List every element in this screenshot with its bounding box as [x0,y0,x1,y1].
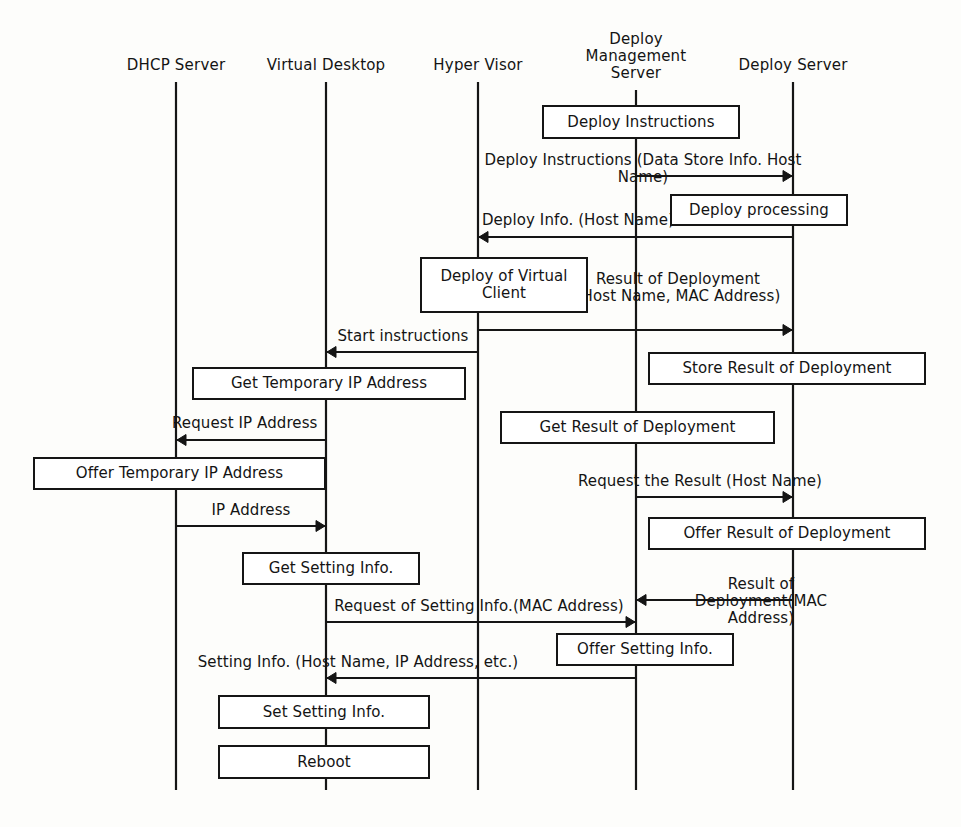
diagram-vector-layer [0,0,961,827]
activity-box-deploy-processing: Deploy processing [670,194,848,226]
activity-box-offer-temporary-ip: Offer Temporary IP Address [33,457,326,490]
message-label-request-setting-info-msg: Request of Setting Info.(MAC Address) [334,598,624,615]
message-label-setting-info-msg: Setting Info. (Host Name, IP Address, et… [198,654,519,671]
lifeline-label-hypervisor: Hyper Visor [433,57,522,74]
activity-box-deploy-instructions: Deploy Instructions [542,105,740,139]
message-label-request-the-result-msg: Request the Result (Host Name) [578,473,822,490]
arrowhead-start-instructions-msg [327,347,336,358]
activity-box-offer-setting-info: Offer Setting Info. [556,633,734,666]
message-label-ip-address-msg: IP Address [212,502,291,519]
activity-box-get-setting-info: Get Setting Info. [242,552,420,585]
message-label-start-instructions-msg: Start instructions [337,328,468,345]
activity-box-store-result: Store Result of Deployment [648,352,926,385]
activity-box-offer-result: Offer Result of Deployment [648,517,926,550]
sequence-diagram-canvas: DHCP ServerVirtual DesktopHyper VisorDep… [0,0,961,827]
activity-box-get-temporary-ip: Get Temporary IP Address [192,367,466,400]
lifeline-label-vdesktop: Virtual Desktop [267,57,386,74]
lifeline-label-deploysrv: Deploy Server [738,57,847,74]
arrowhead-request-the-result-msg [783,492,792,503]
activity-box-deploy-of-virtual-client: Deploy of Virtual Client [420,257,588,313]
arrowhead-deploy-info-msg [479,232,488,243]
message-label-deploy-info-msg: Deploy Info. (Host Name) [482,212,674,229]
arrowhead-result-of-deployment-msg [783,325,792,336]
lifeline-label-dhcp: DHCP Server [127,57,226,74]
arrowhead-request-ip-address-msg [177,435,186,446]
arrowhead-setting-info-msg [327,673,336,684]
message-label-request-ip-address-msg: Request IP Address [172,415,317,432]
message-label-deploy-instructions-msg: Deploy Instructions (Data Store Info. Ho… [484,152,802,186]
activity-box-reboot: Reboot [218,745,430,779]
arrowhead-result-of-deployment-mac-msg [637,595,646,606]
arrowhead-ip-address-msg [316,521,325,532]
activity-box-set-setting-info: Set Setting Info. [218,695,430,729]
lifeline-label-deploymgmt: Deploy Management Server [586,31,687,82]
activity-box-get-result: Get Result of Deployment [500,411,775,444]
arrowhead-request-setting-info-msg [626,617,635,628]
message-label-result-of-deployment-msg: Result of Deployment (Host Name, MAC Add… [576,271,781,305]
message-label-result-of-deployment-mac-msg: Result of Deployment(MAC Address) [661,576,861,627]
